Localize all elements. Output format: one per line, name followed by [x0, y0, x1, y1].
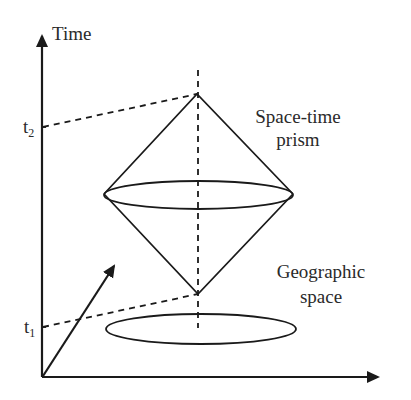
- time-axis-label: Time: [52, 23, 91, 44]
- space-time-prism-diagram: Time t2 t1 Space-time prism Geographic s…: [0, 0, 411, 400]
- t2-label-sub: 2: [28, 126, 34, 140]
- prism-label-line1: Space-time: [255, 106, 340, 127]
- t1-projection-line: [43, 294, 198, 327]
- depth-axis: [43, 266, 114, 376]
- t1-label-sub: 1: [29, 326, 35, 340]
- geographic-space-label-line2: space: [300, 286, 342, 307]
- t2-label: t2: [23, 116, 34, 140]
- prism-label-line2: prism: [276, 129, 320, 150]
- geographic-space-label-line1: Geographic: [277, 261, 366, 282]
- t2-projection-line: [43, 94, 197, 127]
- geographic-space-ellipse: [106, 314, 296, 344]
- t1-label: t1: [24, 316, 35, 340]
